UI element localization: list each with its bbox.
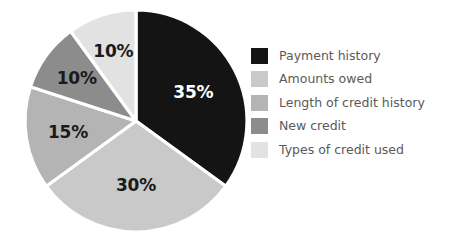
legend-label-payment-history: Payment history	[279, 50, 381, 63]
legend-label-types-of-credit-used: Types of credit used	[279, 144, 404, 157]
pie-slice-data-label: 35%	[173, 82, 213, 102]
legend-label-amounts-owed: Amounts owed	[279, 73, 372, 86]
legend-swatch-icon-length-of-credit-history	[251, 95, 268, 111]
legend-swatch-icon-types-of-credit-used	[251, 142, 268, 158]
legend-item-amounts-owed[interactable]: Amounts owed	[251, 68, 459, 92]
pie-chart-figure: 35%30%15%10%10% Payment history Amounts …	[0, 0, 462, 243]
pie-slice-data-label: 15%	[48, 122, 88, 142]
pie-slice-data-label: 30%	[116, 175, 156, 195]
legend-swatch-icon-payment-history	[251, 48, 268, 64]
legend-item-types-of-credit-used[interactable]: Types of credit used	[251, 138, 459, 162]
pie-slice-data-label: 10%	[57, 68, 97, 88]
legend-swatch-icon-amounts-owed	[251, 71, 268, 87]
legend-swatch-icon-new-credit	[251, 118, 268, 134]
legend-label-length-of-credit-history: Length of credit history	[279, 97, 425, 110]
chart-legend: Payment history Amounts owed Length of c…	[251, 44, 459, 162]
pie-slice-data-label: 10%	[93, 41, 133, 61]
legend-item-payment-history[interactable]: Payment history	[251, 44, 459, 68]
legend-item-length-of-credit-history[interactable]: Length of credit history	[251, 91, 459, 115]
legend-label-new-credit: New credit	[279, 120, 346, 133]
legend-item-new-credit[interactable]: New credit	[251, 115, 459, 139]
